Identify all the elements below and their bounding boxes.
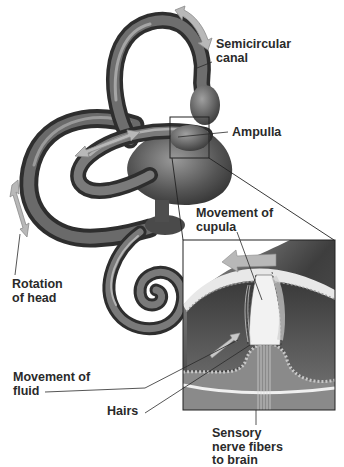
label-movement-of-cupula: Movement of cupula [196, 207, 273, 234]
crista-ampullaris-inset [183, 240, 335, 410]
cochlea [109, 232, 183, 329]
label-sensory-nerve-fibers: Sensory nerve fibers to brain [212, 427, 283, 467]
label-movement-of-fluid: Movement of fluid [13, 371, 90, 398]
label-semicircular-canal: Semicircular canal [216, 38, 291, 65]
label-hairs: Hairs [107, 405, 138, 419]
label-ampulla: Ampulla [232, 126, 281, 140]
inner-ear-diagram: Semicircular canal Ampulla Movement of c… [0, 0, 344, 467]
label-rotation-of-head: Rotation of head [12, 278, 63, 305]
